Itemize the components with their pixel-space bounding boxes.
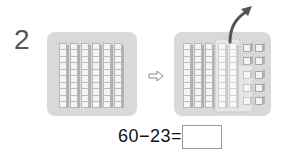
curved-up-arrow-icon [222,4,256,44]
left-blocks-panel [47,32,137,116]
dashed-selection-outline [174,32,271,116]
ten-rod [114,43,122,108]
problem-number: 2 [14,26,30,54]
ten-rod [81,43,89,108]
ten-rod [92,43,100,108]
hollow-right-arrow-icon [148,70,164,82]
right-blocks-panel [174,32,271,116]
ten-rod [59,43,67,108]
ten-rod [70,43,78,108]
answer-input-box[interactable] [182,125,222,149]
ten-rod [103,43,111,108]
equation-text: 60−23= [118,126,182,147]
